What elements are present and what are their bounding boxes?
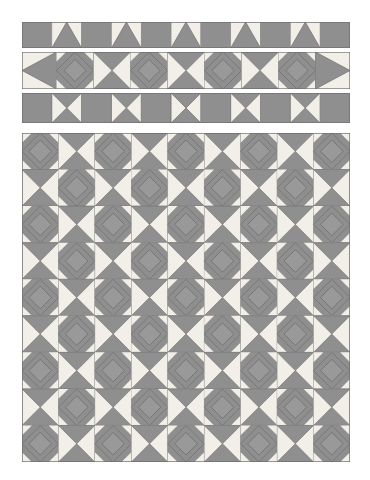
block-star-hourglass bbox=[95, 316, 131, 353]
block-square-in-square bbox=[22, 352, 58, 389]
block-star-hourglass bbox=[314, 243, 350, 280]
block-square-in-square bbox=[168, 279, 204, 316]
block-square-in-square bbox=[241, 206, 277, 243]
block-star-hourglass bbox=[58, 279, 94, 316]
block-star-hourglass bbox=[95, 389, 131, 426]
block-star-hourglass bbox=[204, 133, 240, 170]
block-star-hourglass bbox=[204, 352, 240, 389]
block-solid-square bbox=[141, 22, 171, 48]
block-star-hourglass bbox=[314, 389, 350, 426]
block-star-hourglass bbox=[241, 389, 277, 426]
block-square-in-square bbox=[22, 279, 58, 316]
block-square-in-square bbox=[241, 425, 277, 462]
block-star-hourglass bbox=[22, 316, 58, 353]
block-square-in-square bbox=[58, 316, 94, 353]
block-hourglass-horizontal bbox=[52, 93, 82, 123]
block-hourglass-horizontal bbox=[290, 93, 320, 123]
block-star-hourglass bbox=[277, 279, 313, 316]
block-star-hourglass bbox=[204, 206, 240, 243]
block-solid-square bbox=[261, 22, 291, 48]
block-square-in-square bbox=[58, 389, 94, 426]
block-hourglass-horizontal bbox=[111, 93, 141, 123]
block-solid-square bbox=[320, 93, 350, 123]
block-half-diamond-right bbox=[316, 52, 351, 89]
block-star-hourglass bbox=[314, 170, 350, 207]
block-star-hourglass bbox=[277, 133, 313, 170]
block-star-hourglass bbox=[58, 425, 94, 462]
block-star-hourglass bbox=[204, 279, 240, 316]
block-square-in-square bbox=[241, 133, 277, 170]
block-star-hourglass bbox=[22, 389, 58, 426]
block-square-in-square bbox=[279, 52, 316, 89]
block-peak-triangle bbox=[52, 22, 82, 48]
block-hourglass-horizontal bbox=[231, 93, 261, 123]
block-square-in-square bbox=[95, 279, 131, 316]
border-strip-square-in-square bbox=[22, 52, 350, 89]
block-solid-square bbox=[201, 93, 231, 123]
block-star-hourglass bbox=[131, 425, 167, 462]
block-star-hourglass bbox=[131, 352, 167, 389]
block-square-in-square bbox=[95, 133, 131, 170]
block-square-in-square bbox=[314, 425, 350, 462]
block-solid-square bbox=[22, 22, 52, 48]
block-star-hourglass bbox=[241, 243, 277, 280]
block-square-in-square bbox=[22, 133, 58, 170]
block-hourglass-vertical bbox=[168, 52, 205, 89]
quilt-diagram-page bbox=[0, 0, 370, 480]
block-square-in-square bbox=[204, 316, 240, 353]
block-star-hourglass bbox=[168, 170, 204, 207]
block-square-in-square bbox=[168, 206, 204, 243]
block-solid-square bbox=[82, 93, 112, 123]
block-square-in-square bbox=[241, 279, 277, 316]
block-star-hourglass bbox=[22, 170, 58, 207]
block-peak-triangle bbox=[290, 22, 320, 48]
block-star-hourglass bbox=[241, 316, 277, 353]
block-star-hourglass bbox=[131, 133, 167, 170]
block-square-in-square bbox=[314, 279, 350, 316]
block-square-in-square bbox=[22, 206, 58, 243]
quilt-body bbox=[22, 133, 350, 462]
block-square-in-square bbox=[277, 389, 313, 426]
block-square-in-square bbox=[204, 389, 240, 426]
block-square-in-square bbox=[131, 170, 167, 207]
block-star-hourglass bbox=[204, 425, 240, 462]
block-star-hourglass bbox=[277, 425, 313, 462]
block-star-hourglass bbox=[277, 352, 313, 389]
block-star-hourglass bbox=[22, 243, 58, 280]
block-star-hourglass bbox=[168, 389, 204, 426]
block-square-in-square bbox=[131, 389, 167, 426]
block-square-in-square bbox=[22, 425, 58, 462]
block-star-hourglass bbox=[58, 206, 94, 243]
block-peak-triangle bbox=[111, 22, 141, 48]
block-star-hourglass bbox=[95, 170, 131, 207]
block-square-in-square bbox=[241, 352, 277, 389]
block-square-in-square bbox=[277, 316, 313, 353]
block-square-in-square bbox=[168, 425, 204, 462]
block-solid-square bbox=[82, 22, 112, 48]
block-square-in-square bbox=[131, 52, 168, 89]
block-square-in-square bbox=[314, 352, 350, 389]
block-star-hourglass bbox=[95, 243, 131, 280]
block-star-hourglass bbox=[168, 316, 204, 353]
block-square-in-square bbox=[314, 206, 350, 243]
block-square-in-square bbox=[57, 52, 94, 89]
block-star-hourglass bbox=[131, 206, 167, 243]
block-star-hourglass bbox=[314, 316, 350, 353]
block-star-hourglass bbox=[241, 170, 277, 207]
block-square-in-square bbox=[314, 133, 350, 170]
block-star-hourglass bbox=[277, 206, 313, 243]
block-solid-square bbox=[320, 22, 350, 48]
block-half-diamond-left bbox=[22, 52, 57, 89]
block-square-in-square bbox=[204, 170, 240, 207]
block-square-in-square bbox=[168, 352, 204, 389]
block-square-in-square bbox=[168, 133, 204, 170]
border-strip-triangle-peaks bbox=[22, 22, 350, 48]
block-square-in-square bbox=[95, 352, 131, 389]
block-solid-square bbox=[141, 93, 171, 123]
block-square-in-square bbox=[95, 425, 131, 462]
block-peak-triangle bbox=[171, 22, 201, 48]
block-square-in-square bbox=[131, 243, 167, 280]
block-hourglass-horizontal bbox=[171, 93, 201, 123]
block-solid-square bbox=[22, 93, 52, 123]
block-square-in-square bbox=[205, 52, 242, 89]
